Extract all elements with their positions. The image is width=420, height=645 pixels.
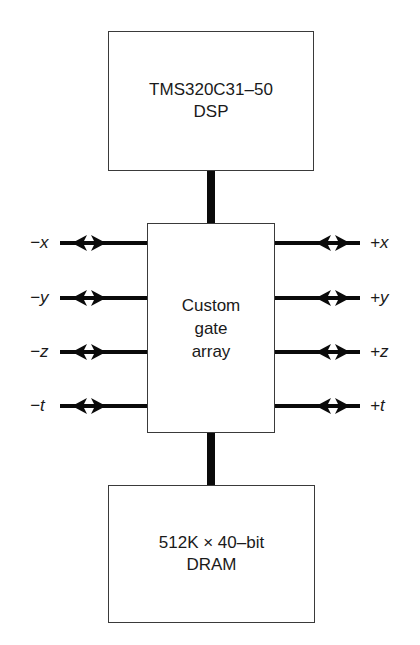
port-label-minus-y: −y [30, 288, 48, 308]
dram-block-line-1: 512K × 40–bit [159, 532, 264, 554]
gate-array-line-2: gate [194, 317, 227, 340]
arrow-plus-t [274, 398, 360, 414]
arrow-minus-t [60, 398, 147, 414]
dsp-block: TMS320C31–50 DSP [108, 31, 314, 171]
port-label-minus-z: −z [30, 342, 48, 362]
gate-array-line-3: array [192, 340, 231, 363]
gate-array-block: Custom gate array [147, 223, 275, 433]
right-port-arrows [274, 235, 360, 414]
gate-array-line-1: Custom [182, 294, 241, 317]
port-label-plus-t: +t [370, 396, 385, 416]
dram-block-line-2: DRAM [186, 554, 236, 576]
dsp-block-line-2: DSP [194, 101, 229, 123]
arrow-minus-y [60, 290, 147, 306]
port-label-minus-t: −t [30, 396, 45, 416]
port-label-minus-x: −x [30, 233, 48, 253]
arrow-minus-x [60, 235, 147, 251]
arrow-plus-z [274, 344, 360, 360]
bus-dsp-to-gate-array [207, 170, 215, 224]
port-label-plus-z: +z [370, 342, 388, 362]
dsp-block-line-1: TMS320C31–50 [149, 79, 273, 101]
arrow-minus-z [60, 344, 147, 360]
dram-block: 512K × 40–bit DRAM [108, 485, 315, 623]
port-label-plus-y: +y [370, 288, 388, 308]
bus-gate-array-to-dram [207, 432, 215, 486]
arrow-plus-x [274, 235, 360, 251]
left-port-arrows [60, 235, 147, 414]
port-label-plus-x: +x [370, 233, 388, 253]
arrow-plus-y [274, 290, 360, 306]
